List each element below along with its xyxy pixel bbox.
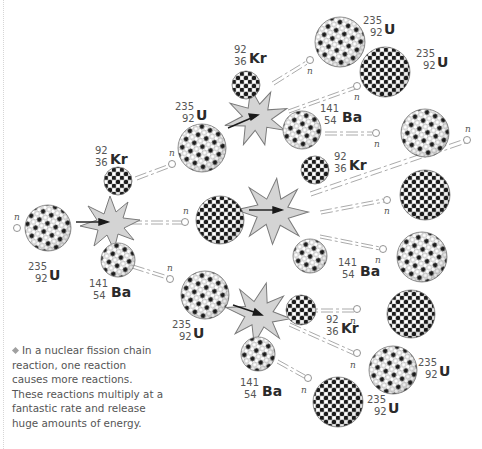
neutron-label: n bbox=[465, 124, 471, 134]
neutron-label: n bbox=[307, 66, 313, 76]
neutron-label: n bbox=[14, 212, 20, 222]
caption-text: In a nuclear fission chain reaction, one… bbox=[12, 344, 163, 429]
neutron-label: n bbox=[183, 206, 189, 216]
neutron-label: n bbox=[374, 139, 380, 149]
neutron-label: n bbox=[384, 206, 390, 216]
neutron-label: n bbox=[301, 385, 307, 395]
diamond-bullet-icon bbox=[12, 346, 19, 353]
neutron-label: n bbox=[169, 148, 175, 158]
neutron-label: n bbox=[350, 360, 356, 370]
neutron-label: n bbox=[167, 263, 173, 273]
neutron-label: n bbox=[354, 92, 360, 102]
caption: In a nuclear fission chain reaction, one… bbox=[12, 343, 164, 431]
